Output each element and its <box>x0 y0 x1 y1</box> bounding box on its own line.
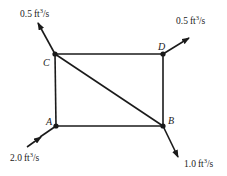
node-d-dot <box>160 51 165 56</box>
pipe-a-c <box>55 54 56 126</box>
outflow-arrow-b <box>163 126 178 157</box>
pipe-network-diagram: C D A B 0.5ft3/s 0.5ft3/s 2.0ft3/s 1.0ft… <box>0 0 227 176</box>
outflow-arrow-c <box>38 23 55 54</box>
outflow-arrow-d <box>163 38 189 54</box>
node-label-a: A <box>45 116 53 127</box>
node-a-dot <box>53 123 58 128</box>
flow-label-d: 0.5ft3/s <box>176 14 206 26</box>
inflow-arrow-a-head <box>40 126 56 137</box>
flow-label-b: 1.0ft3/s <box>184 157 214 169</box>
node-label-b: B <box>168 115 174 126</box>
node-b-dot <box>160 123 165 128</box>
node-c-dot <box>52 51 57 56</box>
node-label-d: D <box>157 41 166 52</box>
flow-label-a: 2.0ft3/s <box>10 151 40 163</box>
flow-label-c: 0.5ft3/s <box>20 7 50 19</box>
pipe-c-b <box>55 54 163 126</box>
inflow-arrow-a-tail <box>27 137 41 147</box>
node-label-c: C <box>43 57 50 68</box>
